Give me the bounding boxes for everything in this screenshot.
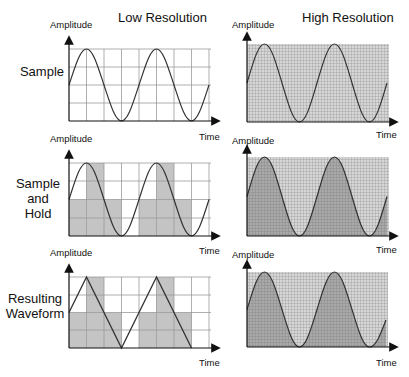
chart-sample-and-hold-low-resolution (69, 154, 216, 236)
chart-sample-and-hold-high-resolution (247, 149, 394, 236)
chart-resulting-waveform-high-resolution (247, 264, 394, 347)
grid (69, 49, 211, 121)
chart-sample-high-resolution (247, 36, 394, 122)
fine-grid (247, 44, 389, 122)
diagram-canvas (0, 0, 409, 377)
chart-resulting-waveform-low-resolution (69, 268, 216, 348)
chart-sample-low-resolution (69, 40, 216, 121)
